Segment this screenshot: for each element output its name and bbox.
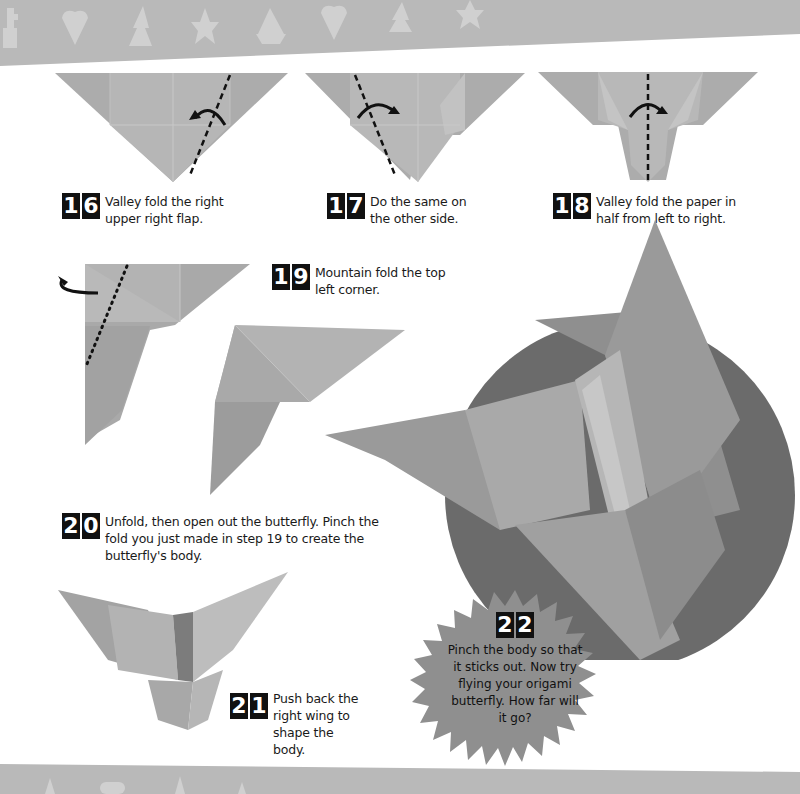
step-16-diagram	[55, 70, 295, 185]
step-20: 20 Unfold, then open out the butterfly. …	[62, 513, 402, 564]
step-21: 21 Push back the right wing to shape the…	[230, 690, 410, 758]
step-16-text: Valley fold the right upper right flap.	[105, 193, 225, 227]
step-22-text: Pinch the body so that it sticks out. No…	[448, 642, 583, 727]
header-band	[0, 0, 800, 70]
step-number-badge: 21	[230, 693, 268, 719]
step-21-text: Push back the right wing to shape the bo…	[273, 690, 368, 758]
step-number-badge: 18	[553, 193, 591, 219]
step-number-badge: 19	[272, 264, 310, 290]
step-22-starburst: 22 Pinch the body so that it sticks out.…	[410, 590, 620, 794]
step-number-badge: 16	[62, 193, 100, 219]
step-17-diagram	[300, 70, 535, 185]
step-16: 16 Valley fold the right upper right fla…	[62, 193, 262, 227]
step-number-badge: 20	[62, 513, 100, 539]
step-number-badge: 17	[327, 193, 365, 219]
step-number-badge: 22	[496, 612, 534, 638]
step-18-diagram	[538, 70, 763, 185]
header-band-shape	[0, 0, 800, 70]
step-20-text: Unfold, then open out the butterfly. Pin…	[105, 513, 395, 564]
footer-band	[0, 760, 800, 794]
